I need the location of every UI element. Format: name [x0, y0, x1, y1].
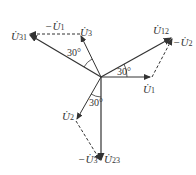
angle-label-23: 30°: [89, 97, 103, 108]
label-u23: U̇23: [104, 153, 120, 165]
angle-arc-31: [84, 59, 92, 67]
label-u1: U̇1: [143, 83, 155, 95]
phasor-neg-u2: [152, 39, 172, 77]
label-u12: U̇12: [153, 24, 169, 36]
angle-label-12: 30°: [117, 66, 131, 77]
label-u3: U̇3: [80, 26, 92, 38]
label-u2: U̇2: [62, 110, 74, 122]
phasor-diagram: U̇1 U̇2 U̇3 U̇12 U̇23 U̇31 −U̇1 −U̇2 −U̇…: [0, 0, 196, 175]
phasor-u12: [101, 38, 171, 77]
label-neg-u2: −U̇2: [173, 36, 192, 48]
label-neg-u3: −U̇3: [78, 153, 97, 165]
label-neg-u1: −U̇1: [45, 20, 64, 32]
angle-label-31: 30°: [67, 47, 81, 58]
label-u31: U̇31: [11, 30, 27, 42]
